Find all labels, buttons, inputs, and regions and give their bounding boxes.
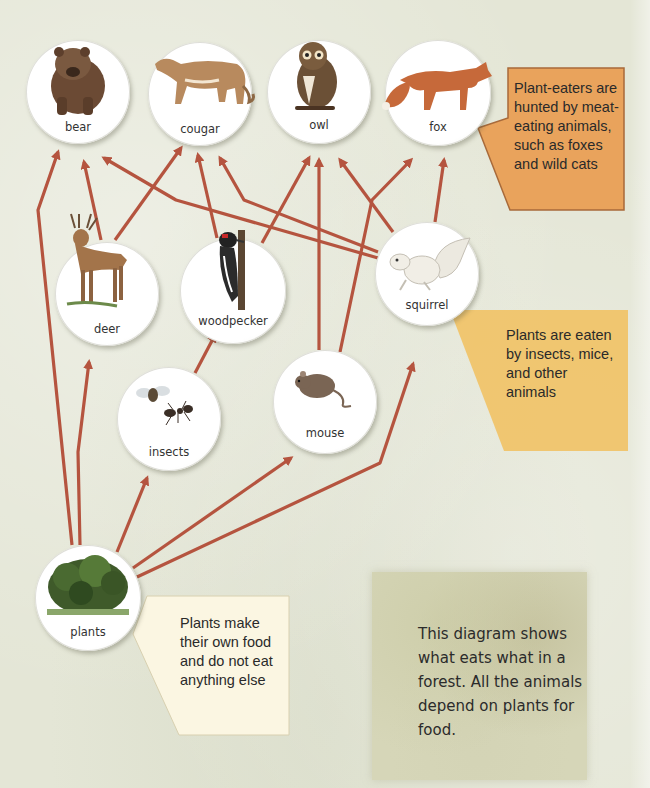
node-cougar: cougar	[148, 42, 252, 146]
edge-plants-mouse	[133, 458, 291, 568]
edge-squirrel-fox	[435, 160, 444, 222]
edge-plants-bear	[38, 152, 72, 545]
edge-insects-woodpecker	[195, 335, 215, 373]
squirrel-icon	[384, 236, 474, 296]
insects-icon	[134, 381, 204, 431]
node-squirrel-label: squirrel	[375, 298, 479, 312]
deer-icon	[57, 212, 137, 322]
bear-icon	[43, 42, 113, 118]
node-insects: insects	[117, 367, 221, 471]
node-plants: plants	[35, 545, 141, 651]
mouse-icon	[293, 366, 357, 410]
summary-box: This diagram shows what eats what in a f…	[372, 572, 587, 780]
node-bear-label: bear	[26, 120, 130, 134]
node-owl: owl	[267, 40, 371, 144]
woodpecker-icon	[208, 226, 258, 312]
node-deer: deer	[55, 242, 159, 346]
node-cougar-label: cougar	[148, 122, 252, 136]
owl-icon	[287, 40, 351, 114]
summary-text: This diagram shows what eats what in a f…	[418, 622, 583, 742]
callout-producers: Plants make their own food and do not ea…	[133, 594, 291, 737]
node-squirrel: squirrel	[375, 222, 479, 326]
plants-icon	[43, 555, 133, 619]
node-bear: bear	[26, 40, 130, 144]
node-mouse: mouse	[273, 350, 377, 454]
callout-meat-eaters: Plant-eaters are hunted by meat-eating a…	[478, 66, 628, 212]
edge-plants-deer	[78, 362, 89, 545]
node-owl-label: owl	[267, 118, 371, 132]
node-woodpecker-label: woodpecker	[180, 314, 286, 328]
node-mouse-label: mouse	[273, 426, 377, 440]
callout-producers-text: Plants make their own food and do not ea…	[180, 614, 288, 690]
callout-plant-eaters: Plants are eaten by insects, mice, and o…	[450, 308, 630, 453]
callout-meat-eaters-text: Plant-eaters are hunted by meat-eating a…	[514, 79, 622, 174]
node-deer-label: deer	[55, 322, 159, 336]
node-insects-label: insects	[117, 445, 221, 459]
cougar-icon	[147, 50, 257, 110]
node-woodpecker: woodpecker	[180, 238, 286, 344]
callout-plant-eaters-text: Plants are eaten by insects, mice, and o…	[506, 326, 616, 402]
node-fox-label: fox	[385, 120, 491, 134]
edge-plants-insects	[117, 478, 147, 552]
node-plants-label: plants	[35, 625, 141, 639]
fox-icon	[380, 58, 496, 118]
node-fox: fox	[385, 40, 491, 146]
